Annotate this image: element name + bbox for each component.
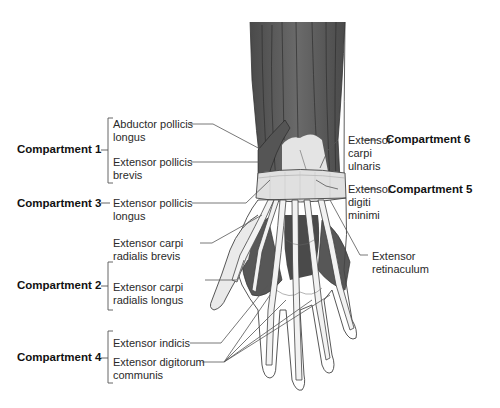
extensor-indicis-label: Extensor indicis: [113, 337, 190, 350]
label-line: brevis: [113, 169, 192, 182]
label-line: Extensor: [348, 134, 391, 147]
extensor-digiti-minimi-label: Extensor digiti minimi: [348, 183, 391, 222]
extensor-digitorum-communis-label: Extensor digitorum communis: [113, 356, 205, 382]
forearm: [245, 0, 350, 185]
abductor-pollicis-longus-label: Abductor pollicis longus: [113, 118, 193, 144]
label-line: minimi: [348, 209, 391, 222]
compartment-3-label: Compartment 3: [17, 197, 101, 209]
extensor-carpi-radialis-longus-label: Extensor carpi radialis longus: [113, 281, 183, 307]
label-line: radialis brevis: [113, 250, 183, 263]
extensor-pollicis-longus-label: Extensor pollicis longus: [113, 197, 192, 223]
compartment-2-label: Compartment 2: [17, 279, 101, 291]
anatomy-figure: Compartment 1 Compartment 3 Compartment …: [0, 0, 500, 408]
compartment-1-label: Compartment 1: [17, 143, 101, 155]
label-line: Extensor: [372, 250, 429, 263]
label-line: Extensor pollicis: [113, 156, 192, 169]
label-line: retinaculum: [372, 263, 429, 276]
label-line: Extensor pollicis: [113, 197, 192, 210]
label-line: digiti: [348, 196, 391, 209]
label-line: Abductor pollicis: [113, 118, 193, 131]
compartment-4-label: Compartment 4: [17, 351, 101, 363]
extensor-pollicis-brevis-label: Extensor pollicis brevis: [113, 156, 192, 182]
hand: [210, 198, 356, 390]
label-line: radialis longus: [113, 294, 183, 307]
label-line: carpi: [348, 147, 391, 160]
label-line: communis: [113, 369, 205, 382]
extensor-carpi-ulnaris-label: Extensor carpi ulnaris: [348, 134, 391, 173]
label-line: longus: [113, 131, 193, 144]
extensor-retinaculum-label: Extensor retinaculum: [372, 250, 429, 276]
label-line: Extensor: [348, 183, 391, 196]
label-line: ulnaris: [348, 160, 391, 173]
label-line: longus: [113, 210, 192, 223]
compartment-6-label: Compartment 6: [386, 133, 470, 145]
compartment-5-label: Compartment 5: [388, 183, 472, 195]
label-line: Extensor carpi: [113, 281, 183, 294]
extensor-carpi-radialis-brevis-label: Extensor carpi radialis brevis: [113, 237, 183, 263]
label-line: Extensor digitorum: [113, 356, 205, 369]
label-line: Extensor carpi: [113, 237, 183, 250]
